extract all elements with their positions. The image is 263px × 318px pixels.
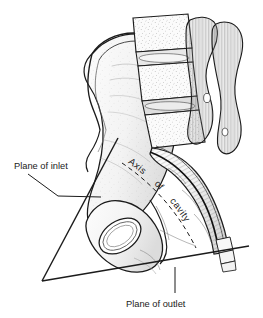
- plane-of-outlet-label: Plane of outlet: [126, 299, 186, 309]
- sacral-foramen-2: [222, 128, 228, 136]
- anatomy-illustration: Axis of cavity Plane of inlet Plane of o…: [0, 0, 263, 318]
- vertebral-body-1-trabeculae: [133, 14, 192, 52]
- sacral-foramen-1: [204, 93, 211, 102]
- plane-of-inlet-label: Plane of inlet: [14, 161, 68, 171]
- disc-1-nucleus: [139, 54, 189, 63]
- lumbar-vertebra-upper: [133, 14, 193, 66]
- disc-2-nucleus: [145, 102, 195, 111]
- pelvis-anatomy-figure: Axis of cavity Plane of inlet Plane of o…: [0, 0, 263, 318]
